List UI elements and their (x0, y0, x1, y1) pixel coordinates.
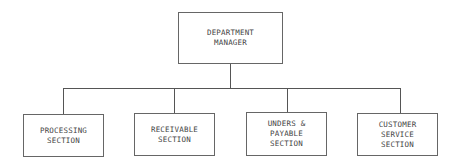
unders-payable-section-box: UNDERS & PAYABLE SECTION (246, 112, 327, 156)
department-manager-box: DEPARTMENT MANAGER (178, 12, 283, 64)
connector-horizontal-bus (63, 88, 401, 89)
customer-service-section-label: CUSTOMER SERVICE SECTION (379, 120, 417, 150)
processing-section-label: PROCESSING SECTION (40, 126, 87, 146)
connector-child-1 (63, 88, 64, 114)
connector-child-2 (174, 88, 175, 113)
connector-child-4 (400, 88, 401, 113)
processing-section-box: PROCESSING SECTION (23, 114, 104, 157)
department-manager-label: DEPARTMENT MANAGER (207, 28, 254, 48)
receivable-section-label: RECEIVABLE SECTION (151, 125, 198, 145)
connector-root-down (230, 63, 231, 88)
connector-child-3 (287, 88, 288, 112)
customer-service-section-box: CUSTOMER SERVICE SECTION (357, 113, 438, 156)
unders-payable-section-label: UNDERS & PAYABLE SECTION (268, 119, 306, 149)
receivable-section-box: RECEIVABLE SECTION (134, 113, 215, 156)
